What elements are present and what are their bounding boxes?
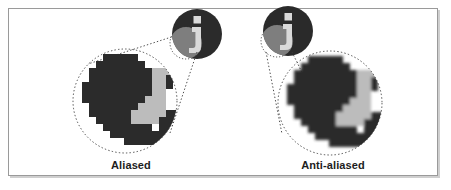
aliased-connector-bottom [170,52,197,133]
aliasing-comparison-figure: Aliased Anti-aliased [0,0,451,190]
aliased-magnified-art [82,54,180,145]
caption-anti-aliased: Anti-aliased [301,159,365,171]
figure-graphics [0,0,451,190]
caption-aliased: Aliased [111,159,151,171]
panel-anti-aliased [261,6,385,155]
panel-aliased [73,9,222,153]
anti-aliased-magnified-art [287,56,385,147]
anti-aliased-connector-left [266,52,282,134]
